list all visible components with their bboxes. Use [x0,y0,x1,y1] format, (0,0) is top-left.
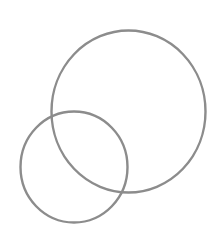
venn-diagram [0,0,220,246]
